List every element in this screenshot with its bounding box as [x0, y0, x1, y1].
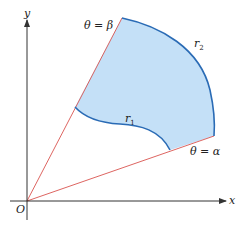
- r1-label: r1: [125, 113, 135, 127]
- y-axis-label: y: [24, 8, 30, 19]
- theta-beta-label: θ = β: [84, 20, 113, 31]
- r2-label-subscript: 2: [199, 44, 203, 52]
- theta-alpha-label: θ = α: [190, 146, 220, 157]
- x-axis-label: x: [229, 195, 235, 206]
- ray-theta-alpha: [27, 136, 214, 201]
- diagram-canvas: [0, 0, 238, 229]
- r1-label-subscript: 1: [130, 119, 134, 127]
- r2-label: r2: [194, 38, 204, 52]
- polar-region-diagram: y x O θ = β θ = α r2 r1: [0, 0, 238, 229]
- origin-label: O: [16, 204, 25, 215]
